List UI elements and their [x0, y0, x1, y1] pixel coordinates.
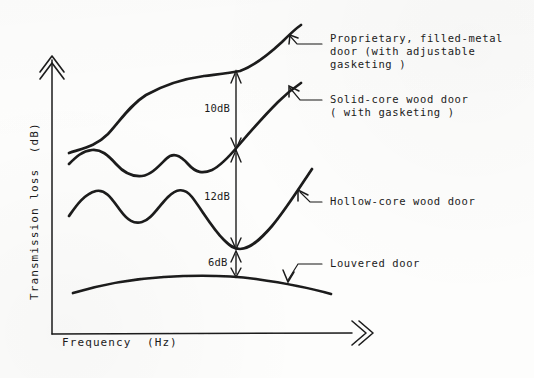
label-solid-core-line-2: ( with gasketing ): [330, 106, 455, 119]
label-louvered-door: Louvered door: [330, 257, 420, 270]
curve-hollow-core-wood-door: [69, 169, 312, 249]
dimension-label-12db: 12dB: [204, 190, 230, 203]
y-axis-label: Transmission loss (dB): [28, 122, 41, 300]
y-axis: [40, 56, 64, 334]
dimension-label-10db: 10dB: [204, 102, 230, 115]
label-hollow-core-wood-door: Hollow-core wood door: [330, 195, 475, 208]
dimension-label-6db: 6dB: [208, 256, 228, 269]
label-proprietary-line-1: Proprietary, filled-metal: [330, 32, 503, 45]
label-solid-core-line-1: Solid-core wood door: [330, 93, 468, 106]
dimension-arrow-6db: [231, 251, 241, 277]
dimension-arrow-10db: [231, 71, 241, 149]
label-proprietary-line-3: gasketing ): [330, 58, 406, 71]
label-proprietary-line-2: door (with adjustable: [330, 45, 475, 58]
curve-louvered-door: [73, 276, 331, 294]
leader-proprietary: [289, 35, 322, 44]
leader-hollow-core: [298, 190, 322, 202]
figure-canvas: Transmission loss (dB) Frequency (Hz) Pr…: [0, 0, 534, 378]
x-axis-label: Frequency (Hz): [62, 336, 178, 349]
leader-louvered: [283, 264, 322, 282]
leader-solid-core: [289, 86, 322, 100]
curve-solid-core-wood-door: [69, 83, 301, 176]
curve-proprietary-filled-metal-door: [69, 25, 301, 153]
dimension-arrow-12db: [231, 150, 241, 249]
